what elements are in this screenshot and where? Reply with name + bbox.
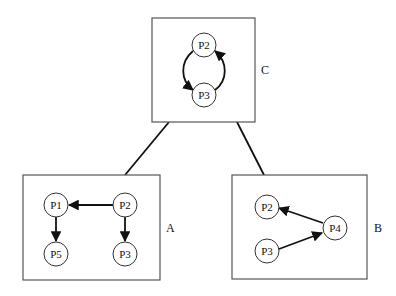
- node-c-p2-label: P2: [198, 39, 210, 51]
- box-a-label: A: [166, 221, 175, 235]
- box-b-label: B: [374, 221, 382, 235]
- node-b-p3-label: P3: [261, 245, 273, 257]
- node-a-p3-label: P3: [119, 248, 131, 260]
- diagram-canvas: P2 P3 C P1 P2 P5 P3 A P2 P3 P4 B: [0, 0, 396, 296]
- node-a-p5-label: P5: [50, 248, 62, 260]
- node-b-p4-label: P4: [329, 222, 341, 234]
- box-c-label: C: [261, 63, 269, 77]
- box-c: P2 P3 C: [152, 18, 269, 122]
- box-a-frame: [23, 175, 160, 280]
- node-b-p2-label: P2: [261, 201, 273, 213]
- box-a: P1 P2 P5 P3 A: [23, 175, 175, 280]
- node-a-p1-label: P1: [50, 199, 62, 211]
- node-a-p2-label: P2: [119, 199, 131, 211]
- node-c-p3-label: P3: [198, 89, 210, 101]
- box-b: P2 P3 P4 B: [232, 175, 382, 279]
- link-c-to-a: [125, 122, 169, 175]
- link-c-to-b: [237, 122, 264, 175]
